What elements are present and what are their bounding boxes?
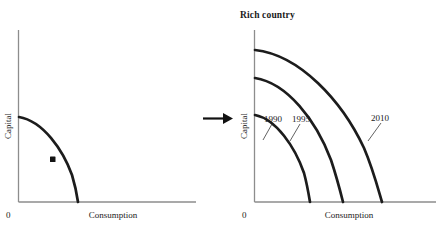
leader-line-2010 [368, 123, 381, 141]
left-panel-ppf-curve [19, 117, 78, 202]
left-panel-origin-label: 0 [6, 210, 11, 220]
left-panel-production-point-marker [50, 157, 56, 163]
curve-label-1995: 1995 [292, 114, 311, 124]
curve-label-2010: 2010 [371, 113, 390, 123]
right-panel: Rich country 1990 1995 2010 Capital 0 [239, 10, 436, 220]
transition-arrow [203, 113, 233, 124]
leader-line-1990 [263, 124, 272, 140]
right-panel-origin-label: 0 [242, 210, 247, 220]
curve-label-1990: 1990 [264, 114, 283, 124]
left-panel-y-axis-label: Capital [3, 113, 13, 139]
left-panel: Capital 0 Consumption [3, 30, 196, 220]
figure-canvas: Capital 0 Consumption Rich country [0, 0, 440, 225]
right-panel-title: Rich country [240, 10, 295, 20]
left-panel-x-axis-label: Consumption [89, 210, 138, 220]
right-panel-y-axis-label: Capital [239, 113, 249, 139]
right-arrow-icon [223, 113, 233, 124]
right-panel-x-axis-label: Consumption [325, 210, 374, 220]
economics-ppf-figure: Capital 0 Consumption Rich country [0, 0, 440, 225]
right-panel-curve-1990 [255, 115, 310, 202]
leader-line-1995 [290, 124, 300, 141]
